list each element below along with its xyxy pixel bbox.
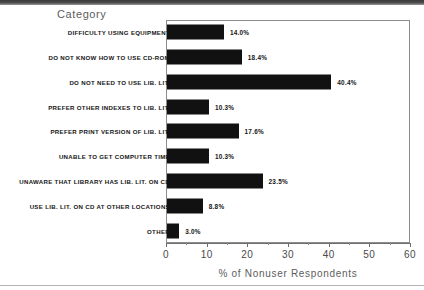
bar-rows: DIFFICULTY USING EQUIPMENT14.0%DO NOT KN… xyxy=(0,20,424,243)
bar-row: UNABLE TO GET COMPUTER TIME10.3% xyxy=(0,144,424,169)
bar-category-label: DIFFICULTY USING EQUIPMENT xyxy=(68,29,170,36)
x-tick-major xyxy=(369,243,370,247)
bar xyxy=(167,50,242,65)
x-tick-major xyxy=(410,243,411,247)
bar xyxy=(167,25,224,40)
bar-row: PREFER OTHER INDEXES TO LIB. LIT.10.3% xyxy=(0,94,424,119)
bar-value-label: 3.0% xyxy=(185,227,201,234)
category-column-heading: Category xyxy=(57,8,106,20)
x-tick-major xyxy=(247,243,248,247)
bar-row: PREFER PRINT VERSION OF LIB. LIT.17.6% xyxy=(0,119,424,144)
x-tick-label: 20 xyxy=(241,249,253,260)
bar-category-label: USE LIB. LIT. ON CD AT OTHER LOCATIONS xyxy=(30,202,170,209)
x-tick-label: 60 xyxy=(404,249,416,260)
bar-value-label: 18.4% xyxy=(248,54,267,61)
x-tick-label: 10 xyxy=(201,249,213,260)
x-tick-major xyxy=(288,243,289,247)
bar-value-label: 23.5% xyxy=(269,178,288,185)
x-tick-label: 0 xyxy=(163,249,169,260)
bar-row: DO NOT NEED TO USE LIB. LIT.40.4% xyxy=(0,70,424,95)
bar-value-label: 10.3% xyxy=(215,153,234,160)
x-tick-label: 40 xyxy=(323,249,335,260)
bar-row: OTHER3.0% xyxy=(0,218,424,243)
bar xyxy=(167,149,209,164)
x-tick-label: 30 xyxy=(282,249,294,260)
x-tick-minor xyxy=(390,243,391,245)
bar-value-label: 14.0% xyxy=(230,29,249,36)
bar-category-label: UNABLE TO GET COMPUTER TIME xyxy=(59,153,170,160)
bar xyxy=(167,99,209,114)
bar-row: DIFFICULTY USING EQUIPMENT14.0% xyxy=(0,20,424,45)
bar-row: DO NOT KNOW HOW TO USE CD-ROM18.4% xyxy=(0,45,424,70)
bar xyxy=(167,198,203,213)
bar xyxy=(167,174,263,189)
bar-value-label: 8.8% xyxy=(209,202,225,209)
bar-row: USE LIB. LIT. ON CD AT OTHER LOCATIONS8.… xyxy=(0,193,424,218)
bar-value-label: 17.6% xyxy=(245,128,264,135)
bar xyxy=(167,74,331,89)
bar-category-label: DO NOT KNOW HOW TO USE CD-ROM xyxy=(48,54,170,61)
bar-category-label: DO NOT NEED TO USE LIB. LIT. xyxy=(69,78,170,85)
x-tick-minor xyxy=(227,243,228,245)
bar-row: UNAWARE THAT LIBRARY HAS LIB. LIT. ON CD… xyxy=(0,169,424,194)
x-tick-minor xyxy=(268,243,269,245)
scan-bottom-rule xyxy=(0,285,424,286)
x-axis-title: % of Nonuser Respondents xyxy=(166,268,410,279)
x-tick-minor xyxy=(349,243,350,245)
bar-chart: Category DIFFICULTY USING EQUIPMENT14.0%… xyxy=(0,0,424,290)
bar-value-label: 10.3% xyxy=(215,103,234,110)
x-tick-minor xyxy=(186,243,187,245)
bar xyxy=(167,223,179,238)
x-tick-major xyxy=(329,243,330,247)
x-tick-major xyxy=(207,243,208,247)
bar-category-label: PREFER OTHER INDEXES TO LIB. LIT. xyxy=(48,103,170,110)
bar-category-label: PREFER PRINT VERSION OF LIB. LIT. xyxy=(50,128,170,135)
x-tick-label: 50 xyxy=(363,249,375,260)
bar-category-label: UNAWARE THAT LIBRARY HAS LIB. LIT. ON CD xyxy=(19,178,170,185)
x-tick-major xyxy=(166,243,167,247)
bar xyxy=(167,124,239,139)
x-tick-minor xyxy=(308,243,309,245)
bar-value-label: 40.4% xyxy=(337,78,356,85)
